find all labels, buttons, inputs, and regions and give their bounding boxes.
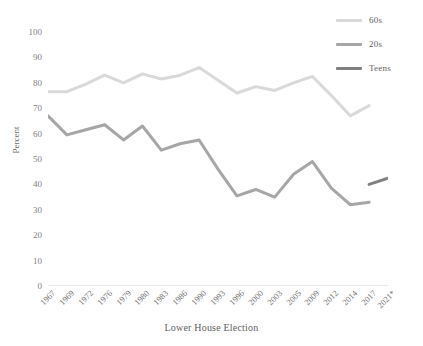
legend-swatch-60s	[336, 19, 362, 22]
y-tick-label: 20	[12, 230, 42, 240]
x-axis-title: Lower House Election	[0, 322, 423, 333]
y-tick-label: 30	[12, 205, 42, 215]
series-line-60s	[48, 68, 369, 116]
y-tick-label: 40	[12, 179, 42, 189]
legend-item-60s[interactable]: 60s	[336, 8, 423, 32]
y-tick-label: 100	[12, 27, 42, 37]
chart-svg	[48, 32, 388, 286]
y-tick-label: 90	[12, 52, 42, 62]
series-line-teens	[369, 178, 388, 184]
legend-label-60s: 60s	[369, 15, 382, 25]
series-layer	[48, 68, 388, 205]
chart-container: 60s 20s Teens 1009080706050403020100 Per…	[0, 0, 423, 346]
plot-area	[48, 32, 388, 286]
y-tick-label: 80	[12, 78, 42, 88]
y-tick-label: 0	[12, 281, 42, 291]
series-line-20s	[48, 116, 369, 205]
y-axis-title: Percent	[11, 110, 21, 170]
y-tick-label: 10	[12, 256, 42, 266]
